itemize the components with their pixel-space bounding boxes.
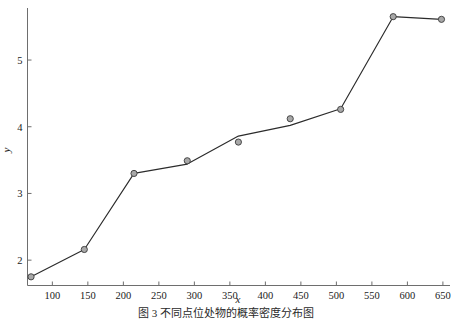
- data-point-marker: [338, 106, 344, 112]
- data-line-series: [31, 17, 441, 277]
- x-tick-label: 150: [80, 290, 96, 301]
- x-tick-label: 250: [151, 290, 167, 301]
- figure-container: 100150200250300350400450500550600650 234…: [0, 0, 452, 319]
- y-axis-label: y: [0, 147, 12, 153]
- y-tick-label: 3: [17, 188, 22, 199]
- data-point-marker: [390, 14, 396, 20]
- line-chart: 100150200250300350400450500550600650 234…: [0, 0, 452, 319]
- y-tick-label: 5: [17, 55, 22, 66]
- x-tick-label: 500: [329, 290, 345, 301]
- x-axis-ticks: 100150200250300350400450500550600650: [44, 282, 450, 301]
- chart-axes: [28, 8, 451, 286]
- x-tick-label: 100: [44, 290, 60, 301]
- data-point-marker: [131, 170, 137, 176]
- data-point-marker: [184, 158, 190, 164]
- data-point-marker: [287, 116, 293, 122]
- x-tick-label: 450: [293, 290, 309, 301]
- y-axis-ticks: 2345: [17, 55, 31, 266]
- x-tick-label: 200: [115, 290, 131, 301]
- x-tick-label: 600: [400, 290, 416, 301]
- x-tick-label: 400: [258, 290, 274, 301]
- data-point-marker: [235, 139, 241, 145]
- x-tick-label: 550: [364, 290, 380, 301]
- data-point-marker: [81, 246, 87, 252]
- data-point-marker: [438, 16, 444, 22]
- y-tick-label: 4: [17, 122, 23, 133]
- y-tick-label: 2: [17, 255, 22, 266]
- data-point-marker: [28, 274, 34, 280]
- x-tick-label: 300: [186, 290, 202, 301]
- figure-caption: 图 3 不同点位处物的概率密度分布图: [0, 304, 452, 319]
- x-tick-label: 650: [435, 290, 451, 301]
